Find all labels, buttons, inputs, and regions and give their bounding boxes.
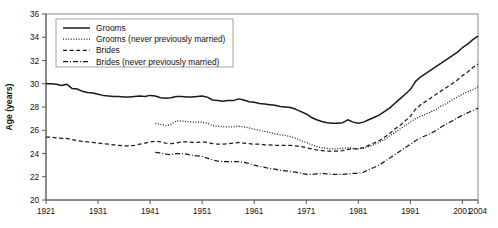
y-tick-label: 34	[30, 33, 40, 42]
legend-label-3: Brides	[96, 45, 120, 55]
y-tick-label: 36	[30, 10, 40, 19]
y-tick-label: 30	[30, 80, 40, 89]
x-tick-label: 2004	[469, 207, 488, 216]
x-tick-label: 1981	[349, 207, 368, 216]
x-tick-label: 1991	[401, 207, 420, 216]
legend-label-1: Grooms	[96, 23, 126, 33]
x-tick-label: 1971	[297, 207, 316, 216]
y-tick-label: 32	[30, 57, 40, 66]
line-chart: 1921193119411951196119711981199120012004…	[0, 0, 498, 228]
chart-container: 1921193119411951196119711981199120012004…	[0, 0, 498, 228]
y-axis-tick-labels: 202224262830323436	[30, 10, 40, 205]
x-tick-label: 1941	[141, 207, 160, 216]
y-axis-title-text: Age (years)	[4, 83, 14, 130]
x-tick-label: 1921	[37, 207, 56, 216]
legend-label-2: Grooms (never previously married)	[96, 34, 226, 44]
legend-label-4: Brides (never previously married)	[96, 57, 220, 67]
chart-legend: GroomsGrooms (never previously married)B…	[56, 19, 233, 67]
series-line-3	[46, 64, 478, 151]
y-tick-label: 26	[30, 126, 40, 135]
x-tick-label: 1951	[193, 207, 212, 216]
x-tick-label: 1931	[89, 207, 108, 216]
y-tick-label: 22	[30, 173, 40, 182]
series-line-4	[155, 108, 478, 174]
y-tick-label: 24	[30, 150, 40, 159]
y-axis-title: Age (years)	[4, 83, 14, 130]
x-tick-label: 1961	[245, 207, 264, 216]
y-tick-label: 20	[30, 196, 40, 205]
y-tick-label: 28	[30, 103, 40, 112]
x-axis-tick-labels: 1921193119411951196119711981199120012004	[37, 207, 488, 216]
